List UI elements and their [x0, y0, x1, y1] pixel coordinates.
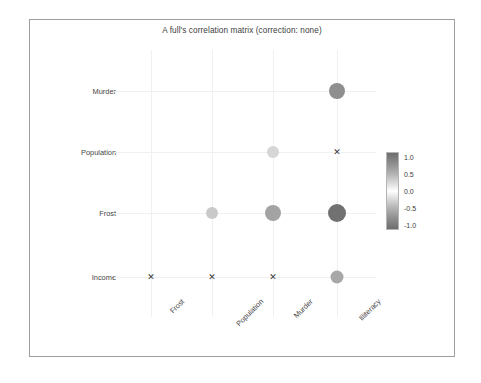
- y-axis-labels: MurderPopulationFrostIncome: [0, 55, 116, 295]
- nonsignificant-cross-income-population: ✕: [208, 273, 216, 282]
- nonsignificant-cross-income-murder: ✕: [269, 273, 277, 282]
- nonsignificant-cross-income-frost: ✕: [147, 273, 155, 282]
- colorbar-tick-neg1_0: -1.0: [404, 222, 416, 229]
- x-axis-labels: FrostPopulationMurderIlliteracy: [120, 297, 380, 349]
- y-axis-label-income: Income: [92, 273, 116, 282]
- x-axis-label-population: Population: [234, 297, 265, 328]
- correlation-dot-frost-population: [206, 207, 218, 219]
- x-axis-label-illiteracy: Illiteracy: [357, 297, 383, 323]
- colorbar-tick-neg0_5: -0.5: [404, 205, 416, 212]
- page-title: A full's correlation matrix (correction:…: [29, 26, 455, 35]
- matrix-panel: ✕✕✕✕: [120, 55, 370, 295]
- x-axis-label-murder: Murder: [292, 297, 315, 320]
- colorbar-gradient: [386, 152, 399, 230]
- colorbar-tick-0_0: 0.0: [404, 188, 414, 195]
- nonsignificant-cross-population-illiteracy: ✕: [333, 148, 341, 157]
- correlation-matrix-figure: A full's correlation matrix (correction:…: [0, 0, 481, 383]
- colorbar-legend: 1.00.50.0-0.5-1.0: [386, 150, 444, 232]
- x-axis-label-frost: Frost: [168, 297, 186, 315]
- correlation-dot-frost-illiteracy: [328, 204, 346, 222]
- correlation-dot-population-murder: [267, 146, 279, 158]
- correlation-dot-frost-murder: [265, 205, 281, 221]
- correlation-dot-murder-illiteracy: [329, 83, 345, 99]
- y-axis-label-murder: Murder: [93, 87, 116, 96]
- y-axis-label-population: Population: [81, 148, 116, 157]
- colorbar-tick-0_5: 0.5: [404, 171, 414, 178]
- colorbar-tick-1_0: 1.0: [404, 154, 414, 161]
- correlation-dot-income-illiteracy: [331, 271, 344, 284]
